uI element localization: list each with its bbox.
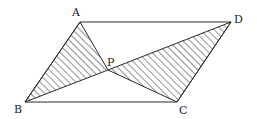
label-a: A bbox=[71, 6, 81, 19]
label-p: P bbox=[107, 56, 115, 69]
geometry-diagram: A D B C P bbox=[0, 0, 257, 119]
shaded-triangle-abp bbox=[25, 22, 108, 102]
parallelogram-figure: A D B C P bbox=[0, 0, 257, 119]
label-d: D bbox=[234, 13, 243, 26]
shaded-triangle-cdp bbox=[108, 22, 231, 102]
label-b: B bbox=[14, 103, 22, 116]
label-c: C bbox=[179, 104, 187, 117]
